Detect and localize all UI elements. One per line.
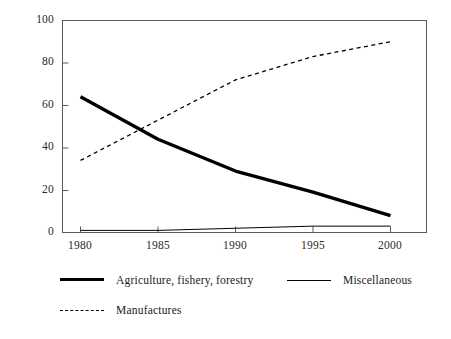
x-tick-label-1985: 1985 bbox=[135, 239, 181, 251]
y-tick-label-80: 80 bbox=[20, 55, 54, 67]
chart-legend: Agriculture, fishery, forestry Miscellan… bbox=[60, 274, 440, 332]
legend-item-manufactures: Manufactures bbox=[60, 304, 182, 316]
chart-figure: 100 80 60 40 20 0 1980 1985 1990 1995 20… bbox=[0, 0, 451, 339]
y-tick-marks bbox=[63, 21, 69, 233]
legend-swatch-solid-thin-icon bbox=[287, 275, 331, 285]
x-tick-marks bbox=[81, 227, 391, 233]
legend-swatch-solid-thick-icon bbox=[60, 275, 104, 285]
series-line-manufactures bbox=[81, 42, 391, 161]
legend-label-miscellaneous: Miscellaneous bbox=[343, 274, 412, 286]
x-tick-label-1990: 1990 bbox=[212, 239, 258, 251]
y-tick-label-20: 20 bbox=[20, 183, 54, 195]
x-tick-label-1995: 1995 bbox=[290, 239, 336, 251]
legend-label-agriculture: Agriculture, fishery, forestry bbox=[116, 274, 253, 286]
series-line-agriculture bbox=[81, 97, 391, 216]
x-tick-label-1980: 1980 bbox=[57, 239, 103, 251]
y-tick-label-0: 0 bbox=[20, 225, 54, 237]
y-tick-label-100: 100 bbox=[20, 13, 54, 25]
y-tick-label-40: 40 bbox=[20, 140, 54, 152]
y-tick-label-60: 60 bbox=[20, 98, 54, 110]
legend-swatch-dashed-icon bbox=[60, 305, 104, 315]
plot-frame bbox=[63, 21, 427, 233]
legend-item-agriculture: Agriculture, fishery, forestry bbox=[60, 274, 253, 286]
legend-item-miscellaneous: Miscellaneous bbox=[287, 274, 412, 286]
x-tick-label-2000: 2000 bbox=[367, 239, 413, 251]
legend-label-manufactures: Manufactures bbox=[116, 304, 182, 316]
